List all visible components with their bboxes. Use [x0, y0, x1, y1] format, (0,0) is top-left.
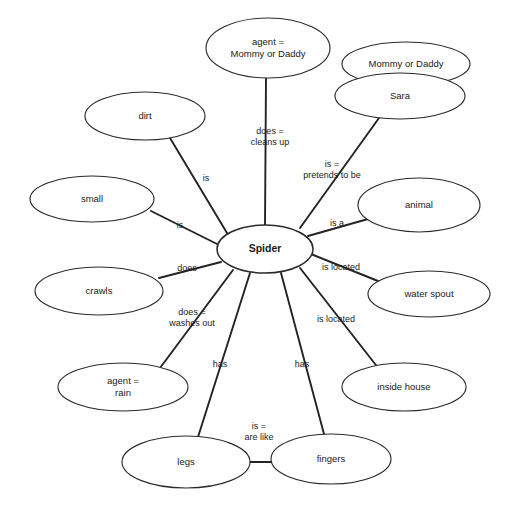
- node-label: crawls: [86, 285, 113, 296]
- node-label: Mommy or Daddy: [369, 58, 444, 69]
- node-label: small: [81, 193, 103, 204]
- edge-label-e-animal: is a: [330, 218, 344, 228]
- node-water_spout[interactable]: water spout: [368, 271, 490, 317]
- node-fingers[interactable]: fingers: [271, 434, 391, 484]
- edge-label-e-fingers: has: [295, 359, 310, 369]
- node-small[interactable]: small: [30, 176, 154, 222]
- edge-e-agent-parent: [265, 78, 266, 225]
- node-animal[interactable]: animal: [358, 178, 480, 232]
- edge-label-e-legs: has: [213, 359, 228, 369]
- edge-label-e-agent-parent: does =cleans up: [251, 126, 290, 147]
- node-label: Sara: [390, 90, 411, 101]
- edge-label-e-crawls: does: [177, 263, 197, 273]
- node-agent_rain[interactable]: agent =rain: [58, 363, 188, 411]
- node-label: inside house: [377, 381, 430, 392]
- edge-label-e-small: is: [177, 220, 184, 230]
- node-label: fingers: [317, 453, 346, 464]
- edge-label-e-inside: is located: [317, 314, 355, 324]
- edge-label-e-dirt: is: [203, 173, 210, 183]
- node-spider[interactable]: Spider: [217, 225, 313, 273]
- node-label: animal: [405, 199, 433, 210]
- node-label: water spout: [403, 288, 453, 299]
- node-label: legs: [177, 456, 195, 467]
- node-dirt[interactable]: dirt: [85, 92, 205, 140]
- edge-line: [265, 78, 266, 225]
- edge-label-e-spout: is located: [322, 262, 360, 272]
- concept-map-canvas: Spideragent =Mommy or DaddyMommy or Dadd…: [0, 0, 510, 512]
- node-crawls[interactable]: crawls: [35, 267, 163, 315]
- node-agent_parent[interactable]: agent =Mommy or Daddy: [206, 18, 330, 78]
- node-label: dirt: [138, 110, 152, 121]
- node-inside_house[interactable]: inside house: [342, 363, 466, 411]
- node-label: Spider: [249, 242, 282, 254]
- node-sara[interactable]: Sara: [335, 73, 465, 119]
- node-legs[interactable]: legs: [122, 436, 250, 488]
